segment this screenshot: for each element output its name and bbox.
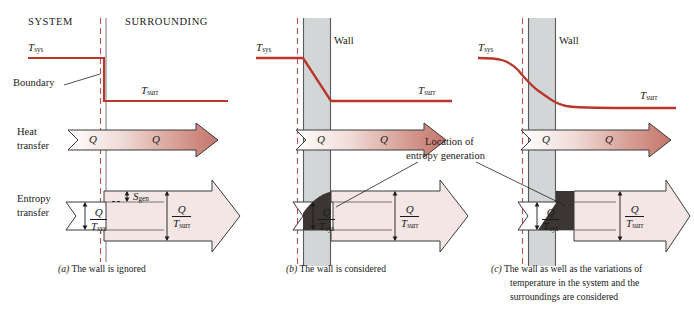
panel-a-heat-q-in: Q xyxy=(89,133,97,145)
panel-a-boundary-label: Boundary xyxy=(13,77,54,88)
panel-a-heat-transfer-label-2: transfer xyxy=(17,140,49,151)
panel-b-heat-q-out: Q xyxy=(380,133,388,145)
panel-b-fraction-q-over-tsys: Q Tsys xyxy=(318,207,335,233)
panel-a-header-system: SYSTEM xyxy=(28,16,73,27)
panel-a-entropy-transfer-label-2: transfer xyxy=(17,207,49,218)
panel-c xyxy=(476,18,690,266)
panel-a-heat-transfer-label-1: Heat xyxy=(17,126,37,137)
panel-a-tsys-label: Tsys xyxy=(28,41,43,54)
panel-a-boundary-leader xyxy=(64,74,100,85)
panel-b-tsys-label: Tsys xyxy=(256,41,271,54)
panel-b-fraction-q-over-tsurr: Q Tsurr xyxy=(400,204,419,230)
panel-a xyxy=(28,18,240,262)
panel-c-tsys-label: Tsys xyxy=(478,41,493,54)
panel-b-wall-label: Wall xyxy=(334,35,354,46)
panel-a-fraction-q-over-tsurr: Q Tsurr xyxy=(172,204,191,230)
panel-a-sgen-label: Sgen xyxy=(133,190,149,203)
panel-a-caption: (a) The wall is ignored xyxy=(58,263,146,274)
panel-c-caption-line-3: surroundings are considered xyxy=(510,291,618,302)
panel-c-wall-label: Wall xyxy=(559,35,579,46)
panel-c-heat-q-out: Q xyxy=(605,133,613,145)
panel-c-tsurr-label: Tsurr xyxy=(640,89,657,102)
panel-c-heat-q-in: Q xyxy=(542,133,550,145)
panel-b-heat-q-in: Q xyxy=(317,133,325,145)
panel-c-fraction-q-over-tsys: Q Tsys xyxy=(542,207,559,233)
panel-a-entropy-transfer-label-1: Entropy xyxy=(17,193,51,204)
panel-a-fraction-q-over-tsys: Q Tsys xyxy=(90,207,107,233)
panel-b-annotation-line-1: Location of xyxy=(425,136,474,147)
panel-b-caption: (b) The wall is considered xyxy=(286,263,386,274)
panel-a-header-surrounding: SURROUNDING xyxy=(125,16,208,27)
panel-a-tsurr-label: Tsurr xyxy=(141,84,158,97)
panel-c-caption-line-2: temperature in the system and the xyxy=(510,277,639,288)
panel-b-tsurr-label: Tsurr xyxy=(418,84,435,97)
panel-c-caption-line-1: (c) The wall as well as the variations o… xyxy=(491,263,642,274)
panel-b-annotation-line-2: entropy generation xyxy=(406,150,485,161)
panel-c-fraction-q-over-tsurr: Q Tsurr xyxy=(625,204,644,230)
panel-a-heat-q-out: Q xyxy=(152,133,160,145)
